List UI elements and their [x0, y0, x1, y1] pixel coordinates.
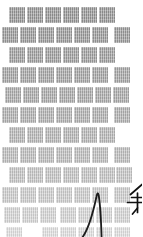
partial-cjk-character: [128, 185, 143, 215]
ink-overlay: [0, 0, 142, 237]
cjk-stroke: [131, 185, 143, 195]
scanned-page-fragment: [0, 0, 142, 237]
peak-curve: [82, 193, 102, 237]
